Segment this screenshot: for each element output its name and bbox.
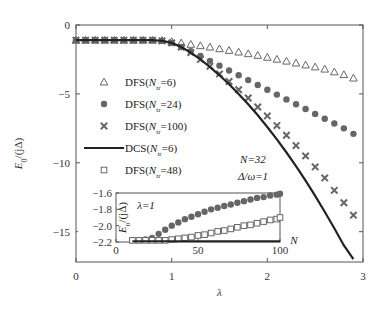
data-point — [312, 111, 318, 117]
data-point — [341, 125, 347, 131]
data-point — [245, 77, 251, 83]
data-point — [322, 175, 328, 181]
annotation-n: N=32 — [239, 153, 266, 165]
data-point — [302, 106, 308, 112]
data-point — [216, 45, 224, 52]
inset-data-point — [234, 200, 240, 206]
data-point — [302, 153, 308, 159]
data-point — [197, 42, 205, 49]
data-point — [331, 187, 337, 193]
inset-data-point — [228, 226, 234, 232]
data-point — [206, 43, 214, 50]
inset-data-point — [215, 229, 221, 235]
data-point — [341, 200, 347, 206]
annotation-ratio: Δ/ω=1 — [237, 170, 268, 182]
inset-x-tick-label: 0 — [113, 244, 119, 256]
inset-data-point — [254, 220, 260, 226]
inset-data-point — [277, 215, 283, 221]
data-point — [216, 62, 222, 68]
legend-marker-circle — [101, 101, 107, 107]
data-point — [264, 113, 270, 119]
data-point — [331, 120, 337, 126]
inset-data-point — [182, 216, 188, 222]
inset-data-point — [195, 211, 201, 217]
data-point — [274, 91, 280, 97]
data-point — [340, 71, 348, 78]
y-tick-label: 0 — [65, 19, 71, 31]
data-point — [264, 87, 270, 93]
inset-x-axis-label: N — [289, 234, 298, 246]
data-point — [321, 65, 329, 72]
data-point — [244, 50, 252, 57]
inset-data-point — [267, 192, 273, 198]
inset-data-point — [182, 235, 188, 241]
data-point — [322, 115, 328, 121]
legend-label: DFS(Ntr=48) — [125, 164, 182, 180]
legend-marker-cross — [101, 123, 107, 129]
data-point — [264, 53, 272, 60]
inset-data-point — [162, 227, 168, 233]
inset-data-point — [202, 232, 208, 238]
inset-data-point — [175, 219, 181, 225]
data-point — [302, 61, 310, 68]
inset-data-point — [221, 228, 227, 234]
data-point — [283, 132, 289, 138]
inset-data-point — [260, 194, 266, 200]
data-point — [292, 59, 300, 66]
inset-annotation: λ=1 — [136, 199, 155, 211]
x-tick-label: 1 — [169, 270, 175, 282]
data-point — [273, 55, 281, 62]
data-point — [255, 104, 261, 110]
legend-label: DCS(Ntr=6) — [125, 142, 177, 158]
inset-x-tick-label: 50 — [193, 244, 205, 256]
inset-data-point — [267, 217, 273, 223]
inset-data-point — [235, 225, 241, 231]
inset-data-point — [247, 196, 253, 202]
data-point — [255, 82, 261, 88]
legend-label: DFS(Ntr=24) — [125, 98, 182, 114]
x-tick-label: 0 — [73, 270, 79, 282]
data-point — [312, 164, 318, 170]
data-point — [350, 212, 356, 218]
data-point — [274, 122, 280, 128]
inset-x-tick-label: 100 — [272, 244, 289, 256]
data-point — [331, 68, 339, 75]
y-axis-label: E0/(jΔ) — [12, 138, 29, 171]
data-point — [293, 101, 299, 107]
inset-data-point — [169, 222, 175, 228]
data-point — [283, 96, 289, 102]
inset-data-point — [208, 230, 214, 236]
inset-data-point — [195, 233, 201, 239]
y-tick-label: −5 — [58, 88, 70, 100]
inset-y-tick-label: −1.8 — [92, 203, 112, 215]
inset-data-point — [277, 191, 283, 197]
inset-data-point — [228, 201, 234, 207]
inset-data-point — [261, 219, 267, 225]
data-point — [283, 57, 291, 64]
inset-data-point — [201, 209, 207, 215]
x-tick-label: 3 — [360, 270, 366, 282]
data-point — [311, 63, 319, 70]
inset-data-point — [221, 203, 227, 209]
data-point — [225, 47, 233, 54]
inset-data-point — [189, 234, 195, 240]
series-dfs-ntr-24- — [73, 37, 357, 137]
data-point — [254, 52, 262, 59]
x-tick-label: 2 — [265, 270, 271, 282]
y-tick-label: −10 — [53, 157, 71, 169]
data-point — [235, 72, 241, 78]
data-point — [293, 142, 299, 148]
legend-label: DFS(Ntr=100) — [125, 120, 187, 136]
inset-y-tick-label: −1.6 — [92, 187, 112, 199]
y-tick-label: −15 — [53, 226, 71, 238]
data-point — [350, 74, 358, 81]
data-point — [226, 67, 232, 73]
figure: 01230−5−10−15λE0/(jΔ)DFS(Ntr=6)DFS(Ntr=2… — [0, 0, 386, 311]
inset-data-point — [241, 223, 247, 229]
inset-data-point — [254, 195, 260, 201]
legend-marker-square — [101, 167, 107, 173]
inset-data-point — [155, 231, 161, 237]
inset-data-point — [248, 222, 254, 228]
legend-label: DFS(Ntr=6) — [125, 76, 176, 92]
legend-marker-triangle — [100, 78, 108, 85]
